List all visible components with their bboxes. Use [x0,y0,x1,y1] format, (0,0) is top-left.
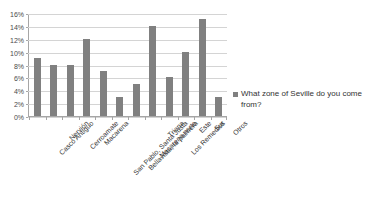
bar[interactable] [83,39,90,116]
y-axis-tick-mark [26,117,28,118]
bar-series [29,14,227,116]
y-axis-tick-label: 8% [0,63,24,70]
bar[interactable] [166,77,173,116]
bar[interactable] [34,58,41,116]
bar-slot [194,14,211,116]
y-axis-tick-label: 16% [0,11,24,18]
y-axis-tick-mark [26,27,28,28]
y-axis-tick-label: 12% [0,37,24,44]
x-axis-labels: Casco AntiguoNerviónCerroamateMacarenaSa… [29,118,228,213]
y-axis-tick-label: 10% [0,50,24,57]
bar-slot [46,14,63,116]
bar[interactable] [116,97,123,116]
y-axis-tick-mark [26,40,28,41]
y-axis-tick-label: 14% [0,24,24,31]
bar-slot [112,14,129,116]
bar-slot [161,14,178,116]
bar-chart: What zone of Seville do you come from? 1… [0,0,377,213]
bar-slot [79,14,96,116]
y-axis-tick-mark [26,14,28,15]
bar[interactable] [50,65,57,117]
legend-label: What zone of Seville do you come from? [241,89,366,110]
bar[interactable] [149,26,156,116]
y-axis-tick-label: 0% [0,114,24,121]
bar-slot [95,14,112,116]
plot-area [28,14,227,117]
y-axis-tick-mark [26,78,28,79]
bar[interactable] [182,52,189,116]
bar[interactable] [215,97,222,116]
y-axis-tick-mark [26,53,28,54]
bar[interactable] [100,71,107,116]
y-axis-tick-label: 4% [0,88,24,95]
y-axis-tick-label: 6% [0,75,24,82]
chart-legend: What zone of Seville do you come from? [233,89,373,110]
x-axis-tick-label: Otros [232,118,251,137]
y-axis-tick-label: 2% [0,101,24,108]
bar-slot [62,14,79,116]
y-axis-tick-mark [26,91,28,92]
bar-slot [145,14,162,116]
bar[interactable] [133,84,140,116]
bar-slot [211,14,228,116]
bar-slot [178,14,195,116]
y-axis-tick-mark [26,104,28,105]
bar-slot [29,14,46,116]
bar-slot [128,14,145,116]
bar[interactable] [199,19,206,116]
legend-marker-icon [233,92,238,97]
bar[interactable] [67,65,74,117]
y-axis-tick-mark [26,66,28,67]
